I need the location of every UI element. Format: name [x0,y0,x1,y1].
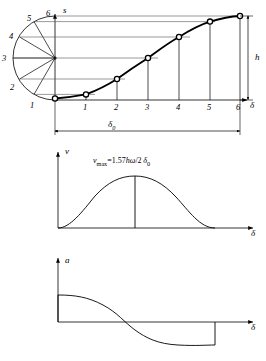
circle-division-5: 5 [27,14,31,23]
peak-velocity-formula: vmax=1.57hω/2 δ0 [93,156,150,167]
acceleration-y-axis-label: a [65,256,70,265]
x-tick-label-2: 2 [114,103,118,112]
circle-division-4: 4 [9,32,13,41]
x-tick-label-5: 5 [207,103,211,112]
x-tick-label-3: 3 [145,103,149,112]
circle-division-3: 3 [2,54,6,63]
circle-division-2: 2 [10,83,14,92]
velocity-y-axis-label: v [65,147,69,156]
displacement-y-axis-label: s [63,6,67,15]
displacement-x-axis-label: δ [250,101,254,110]
x-tick-label-4: 4 [176,103,180,112]
velocity-x-axis-label: δ [251,229,255,238]
velocity-curve [58,176,215,228]
x-tick-label-1: 1 [83,103,87,112]
figure-svg [0,0,266,361]
stroke-angle-dimension-label: δ0 [108,120,115,131]
projection-lines [13,16,240,94]
acceleration-curve [58,295,215,345]
acceleration-axes [58,258,253,322]
velocity-axes [58,152,253,228]
circle-division-1: 1 [30,101,34,110]
acceleration-x-axis-label: δ [251,323,255,332]
height-dimension-label: h [255,53,260,62]
circle-division-6: 6 [46,9,50,18]
height-dimension [240,16,253,100]
figure-container: s δ 1 2 3 4 5 6 1 2 3 4 5 6 h δ0 v δ vma… [0,0,266,361]
displacement-data-points [52,13,242,101]
x-tick-label-6: 6 [236,103,240,112]
